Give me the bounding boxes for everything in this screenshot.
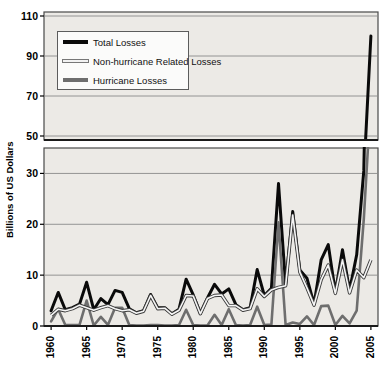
x-tick-label-1970: 1970 <box>116 336 127 358</box>
x-tick-label-1965: 1965 <box>81 336 92 358</box>
chart-figure: Billions of US Dollars 5070901100102030 … <box>0 0 387 377</box>
x-tick-label-2000: 2000 <box>329 336 340 358</box>
legend-swatch-non-hurricane-losses <box>63 56 88 66</box>
x-tick-label-1980: 1980 <box>187 336 198 358</box>
chart-legend: Total Losses Non-hurricane Related Losse… <box>57 31 189 90</box>
y-tick-label-10: 10 <box>10 269 38 281</box>
x-tick-label-1990: 1990 <box>258 336 269 358</box>
x-tick-label-1985: 1985 <box>223 336 234 358</box>
x-tick-label-1975: 1975 <box>152 336 163 358</box>
y-axis-ticks: 5070901100102030 <box>0 0 38 377</box>
panel-background-lower <box>44 148 378 326</box>
legend-label-total-losses: Total Losses <box>93 37 146 48</box>
y-tick-label-50: 50 <box>10 130 38 142</box>
legend-item-hurricane-losses: Hurricane Losses <box>63 71 188 89</box>
legend-label-non-hurricane-losses: Non-hurricane Related Losses <box>93 56 221 67</box>
y-tick-label-20: 20 <box>10 218 38 230</box>
x-tick-label-1995: 1995 <box>294 336 305 358</box>
y-tick-label-70: 70 <box>10 90 38 102</box>
y-tick-label-30: 30 <box>10 167 38 179</box>
legend-swatch-hurricane-losses <box>63 75 88 85</box>
x-tick-label-2005: 2005 <box>365 336 376 358</box>
x-tick-label-1960: 1960 <box>45 336 56 358</box>
legend-item-non-hurricane-losses: Non-hurricane Related Losses <box>63 52 188 70</box>
y-tick-label-0: 0 <box>10 320 38 332</box>
legend-item-total-losses: Total Losses <box>63 33 188 51</box>
legend-swatch-total-losses <box>63 37 88 47</box>
legend-label-hurricane-losses: Hurricane Losses <box>93 75 167 86</box>
y-tick-label-90: 90 <box>10 50 38 62</box>
y-tick-label-110: 110 <box>10 10 38 22</box>
